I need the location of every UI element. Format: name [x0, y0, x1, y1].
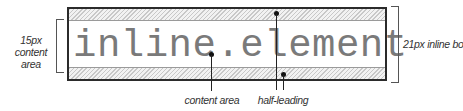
- half-leading-bottom-line: [283, 75, 284, 90]
- sample-inline-text: inline.element: [73, 26, 408, 66]
- inline-box: inline.element: [67, 7, 387, 81]
- inline-box-bracket: [391, 6, 399, 83]
- top-half-leading: [69, 9, 385, 21]
- content-area-bracket: [56, 19, 64, 73]
- content-area-pointer-line: [211, 55, 212, 91]
- content-area-label: content area: [170, 94, 254, 106]
- half-leading-label: half-leading: [248, 94, 318, 106]
- bottom-half-leading: [69, 67, 385, 79]
- inline-box-size-label: 21px inline box: [403, 38, 463, 50]
- half-leading-top-line: [276, 14, 277, 90]
- content-area-size-label-line1: 15px content: [6, 34, 56, 58]
- content-area-size-label-line2: area: [6, 58, 56, 70]
- content-area-size-label: 15px content area: [6, 34, 56, 70]
